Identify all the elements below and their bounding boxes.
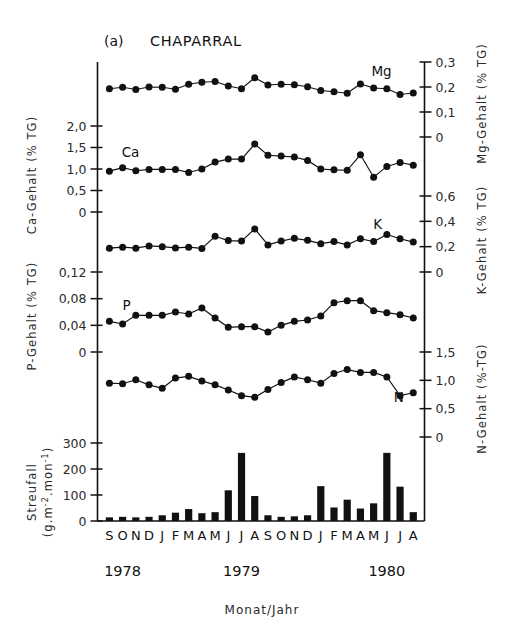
month-tick-label: D <box>144 528 154 543</box>
data-point-ca <box>119 164 126 171</box>
data-point-n <box>198 377 205 384</box>
data-point-p <box>357 297 364 304</box>
bar-streufall <box>330 507 337 521</box>
bar-streufall <box>264 515 271 521</box>
tick-label-mg: 0,1 <box>436 105 456 120</box>
data-point-k <box>330 238 337 245</box>
data-point-n <box>251 394 258 401</box>
bar-streufall <box>198 513 205 521</box>
month-tick-label: N <box>131 528 141 543</box>
data-point-p <box>132 312 139 319</box>
data-point-ca <box>383 163 390 170</box>
tick-label-mg: 0 <box>436 130 444 145</box>
month-tick-label: O <box>276 528 286 543</box>
data-point-ca <box>185 169 192 176</box>
data-point-mg <box>212 78 219 85</box>
data-point-n <box>212 381 219 388</box>
data-point-p <box>317 313 324 320</box>
data-point-n <box>317 380 324 387</box>
data-point-ca <box>132 167 139 174</box>
bar-streufall <box>410 512 417 521</box>
data-point-k <box>225 237 232 244</box>
data-point-n <box>330 370 337 377</box>
y-axis-title-streufall: Streufall <box>25 463 39 521</box>
tick-label-ca: 1,5 <box>67 140 87 155</box>
panel-label: (a) <box>104 33 124 49</box>
tick-label-streufall: 100 <box>63 488 87 503</box>
data-point-k <box>238 238 245 245</box>
data-point-p <box>119 321 126 328</box>
month-tick-label: M <box>183 528 194 543</box>
bar-streufall <box>172 513 179 521</box>
series-line-k <box>109 229 413 249</box>
data-point-mg <box>410 90 417 97</box>
data-point-mg <box>357 81 364 88</box>
month-tick-label: J <box>384 528 389 543</box>
data-point-k <box>304 237 311 244</box>
month-tick-label: N <box>289 528 299 543</box>
data-point-k <box>291 235 298 242</box>
month-tick-label: M <box>342 528 353 543</box>
data-point-p <box>291 318 298 325</box>
data-point-ca <box>357 151 364 158</box>
data-point-ca <box>264 152 271 159</box>
data-point-ca <box>304 157 311 164</box>
data-point-ca <box>278 153 285 160</box>
bar-streufall <box>396 487 403 521</box>
tick-label-p: 0,04 <box>59 318 87 333</box>
tick-label-n: 0,5 <box>436 401 456 416</box>
data-point-mg <box>106 85 113 92</box>
data-point-mg <box>172 86 179 93</box>
data-point-mg <box>198 79 205 86</box>
bar-streufall <box>278 517 285 521</box>
data-point-mg <box>119 84 126 91</box>
y-axis-unit-streufall: (g.m-2.mon-1) <box>41 447 55 538</box>
data-point-k <box>198 245 205 252</box>
year-label: 1978 <box>104 563 141 579</box>
month-tick-label: S <box>264 528 272 543</box>
data-point-mg <box>291 81 298 88</box>
data-point-ca <box>146 166 153 173</box>
series-label-mg: Mg <box>371 63 391 79</box>
data-point-ca <box>330 166 337 173</box>
data-point-mg <box>238 85 245 92</box>
year-label: 1979 <box>223 563 260 579</box>
figure-title: CHAPARRAL <box>150 33 242 49</box>
data-point-p <box>172 309 179 316</box>
series-label-n: N <box>394 389 404 405</box>
data-point-k <box>397 235 404 242</box>
month-tick-label: D <box>303 528 313 543</box>
data-point-mg <box>370 85 377 92</box>
bar-streufall <box>291 516 298 521</box>
data-point-n <box>119 380 126 387</box>
data-point-mg <box>397 91 404 98</box>
month-tick-label: J <box>239 528 244 543</box>
data-point-p <box>330 299 337 306</box>
data-point-n <box>291 373 298 380</box>
data-point-k <box>251 225 258 232</box>
data-point-ca <box>317 166 324 173</box>
data-point-p <box>344 297 351 304</box>
tick-label-n: 1,5 <box>436 345 456 360</box>
data-point-k <box>146 242 153 249</box>
data-point-n <box>264 386 271 393</box>
year-label: 1980 <box>368 563 405 579</box>
month-tick-label: A <box>356 528 365 543</box>
tick-label-k: 0 <box>436 265 444 280</box>
data-point-p <box>410 315 417 322</box>
tick-label-ca: 2,0 <box>67 119 87 134</box>
data-point-k <box>172 244 179 251</box>
data-point-p <box>264 329 271 336</box>
bar-streufall <box>370 503 377 521</box>
tick-label-streufall: 0 <box>79 514 87 529</box>
data-point-k <box>357 235 364 242</box>
tick-label-mg: 0,3 <box>436 55 456 70</box>
data-point-n <box>344 366 351 373</box>
data-point-ca <box>172 166 179 173</box>
data-point-p <box>383 309 390 316</box>
bar-streufall <box>225 490 232 521</box>
tick-label-p: 0,12 <box>59 265 87 280</box>
tick-label-streufall: 200 <box>63 462 87 477</box>
y-axis-title-ca: Ca-Gehalt (% TG) <box>25 116 39 234</box>
data-point-k <box>410 239 417 246</box>
